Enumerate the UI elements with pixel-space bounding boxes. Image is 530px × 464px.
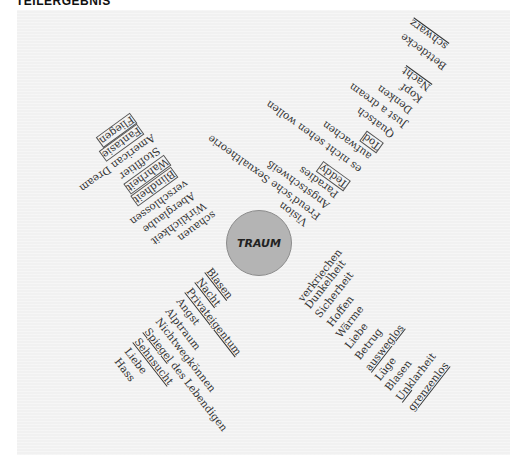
center-label: TRAUM [237, 237, 281, 250]
center-node: TRAUM [226, 210, 292, 276]
page-header: TEILERGEBNIS [16, 0, 111, 8]
